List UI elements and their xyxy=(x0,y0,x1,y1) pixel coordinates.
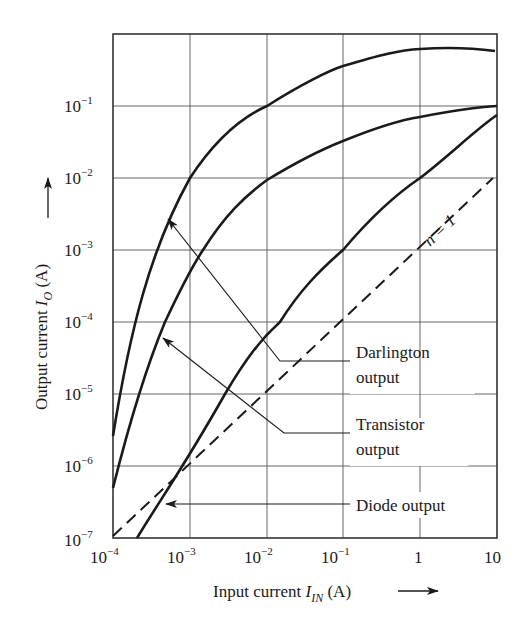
transistor-label: Transistor xyxy=(356,415,425,434)
svg-text:10−2: 10−2 xyxy=(244,545,273,567)
diode-label: Diode output xyxy=(356,496,446,515)
svg-text:10−4: 10−4 xyxy=(90,545,119,567)
transistor-leader-arrow xyxy=(163,338,350,433)
darlington-label-2: output xyxy=(356,368,400,387)
svg-text:10−7: 10−7 xyxy=(64,528,93,550)
svg-text:10−3: 10−3 xyxy=(167,545,196,567)
n1-label: n = 1 xyxy=(420,211,460,250)
x-axis-title: Input current IIN (A) xyxy=(213,582,351,605)
svg-text:1: 1 xyxy=(414,548,423,567)
darlington-label: Darlington xyxy=(356,343,430,362)
x-tick-labels: 10−4 10−3 10−2 10−1 1 10 xyxy=(90,545,501,567)
y-tick-labels: 10−1 10−2 10−3 10−4 10−5 10−6 10−7 xyxy=(64,94,93,550)
svg-text:10−1: 10−1 xyxy=(64,94,93,116)
svg-text:10−3: 10−3 xyxy=(64,238,93,260)
svg-text:10−5: 10−5 xyxy=(64,382,93,404)
y-axis-title: Output current IO (A) xyxy=(32,264,55,410)
svg-text:10−6: 10−6 xyxy=(64,454,93,476)
svg-text:10−4: 10−4 xyxy=(64,310,93,332)
svg-text:10: 10 xyxy=(484,548,501,567)
svg-text:10−1: 10−1 xyxy=(321,545,350,567)
svg-text:10−2: 10−2 xyxy=(64,166,93,188)
transistor-label-2: output xyxy=(356,440,400,459)
io-characteristics-chart: Darlington output Transistor output Diod… xyxy=(0,0,525,636)
